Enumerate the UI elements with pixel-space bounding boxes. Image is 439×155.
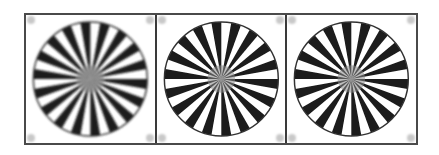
siemens-star-panel-1 [26,15,155,143]
siemens-star-1 [26,15,155,143]
siemens-star-2 [157,15,286,143]
corner-marker-icon [27,134,35,142]
siemens-star-panel-2 [155,15,286,143]
figure-frame [24,13,418,145]
corner-marker-icon [146,16,154,24]
corner-marker-icon [146,134,154,142]
corner-marker-icon [407,16,415,24]
corner-marker-icon [158,134,166,142]
corner-marker-icon [158,16,166,24]
siemens-star-3 [287,15,416,143]
siemens-star-panel-3 [285,15,416,143]
corner-marker-icon [407,134,415,142]
corner-marker-icon [27,16,35,24]
